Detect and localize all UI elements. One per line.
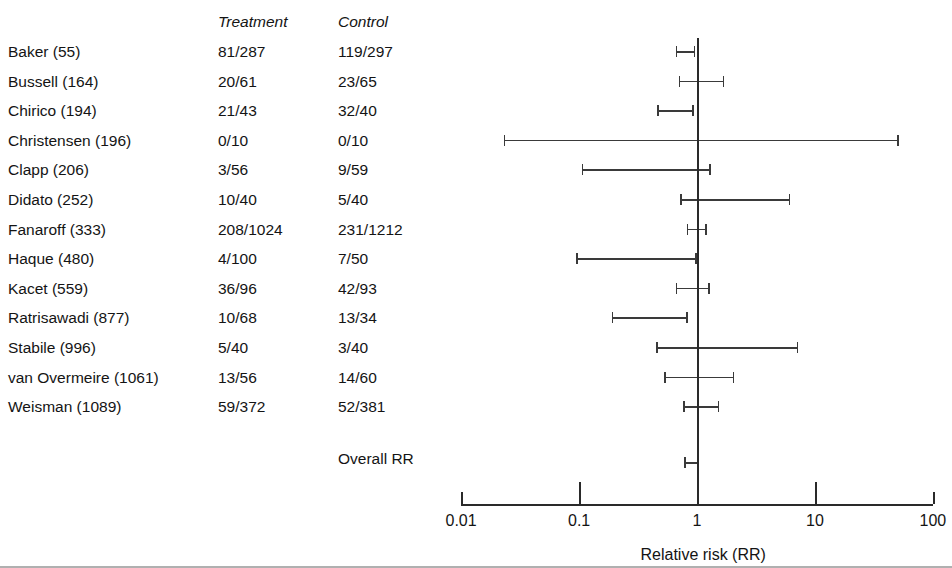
ci-line bbox=[582, 169, 710, 171]
axis-line bbox=[461, 504, 933, 506]
ci-cap-lower bbox=[664, 372, 666, 383]
ci-cap-upper bbox=[686, 312, 688, 323]
null-reference-line bbox=[697, 38, 699, 492]
ci-cap-lower bbox=[656, 342, 658, 353]
ci-line bbox=[676, 51, 694, 53]
ci-line bbox=[656, 347, 797, 349]
ci-cap-lower bbox=[683, 401, 685, 412]
ci-line bbox=[576, 258, 695, 260]
ci-cap-upper bbox=[723, 76, 725, 87]
ci-line bbox=[687, 229, 705, 231]
ci-cap-upper bbox=[797, 342, 799, 353]
ci-cap-lower bbox=[657, 105, 659, 116]
axis-tick bbox=[815, 482, 817, 504]
axis-tick bbox=[697, 482, 699, 504]
axis-tick bbox=[461, 492, 463, 504]
ci-cap-lower bbox=[676, 46, 678, 57]
ci-line bbox=[684, 462, 697, 464]
axis-tick-label: 1 bbox=[693, 512, 702, 530]
ci-cap-lower bbox=[687, 224, 689, 235]
ci-cap-lower bbox=[679, 76, 681, 87]
forest-plot-figure: Treatment Control Baker (55)81/287119/29… bbox=[0, 0, 952, 568]
ci-cap-lower bbox=[582, 164, 584, 175]
axis-tick-label: 10 bbox=[806, 512, 824, 530]
ci-cap-lower bbox=[680, 194, 682, 205]
ci-cap-upper bbox=[705, 224, 707, 235]
ci-cap-lower bbox=[504, 135, 506, 146]
axis-tick bbox=[933, 492, 935, 504]
ci-cap-lower bbox=[576, 253, 578, 264]
axis-tick-label: 0.1 bbox=[568, 512, 590, 530]
ci-cap-lower bbox=[684, 457, 686, 468]
axis-tick-label: 0.01 bbox=[446, 512, 477, 530]
ci-cap-upper bbox=[897, 135, 899, 146]
ci-cap-upper bbox=[694, 46, 696, 57]
ci-cap-upper bbox=[718, 401, 720, 412]
axis-tick bbox=[579, 482, 581, 504]
ci-cap-lower bbox=[676, 283, 678, 294]
ci-line bbox=[612, 317, 686, 319]
ci-line bbox=[657, 110, 692, 112]
x-axis-title: Relative risk (RR) bbox=[641, 546, 766, 564]
ci-line bbox=[504, 140, 898, 142]
ci-cap-upper bbox=[692, 105, 694, 116]
ci-cap-upper bbox=[733, 372, 735, 383]
ci-cap-upper bbox=[709, 164, 711, 175]
axis-tick-label: 100 bbox=[920, 512, 947, 530]
ci-cap-lower bbox=[612, 312, 614, 323]
overall-rr-label: Overall RR bbox=[338, 451, 414, 467]
ci-cap-upper bbox=[789, 194, 791, 205]
ci-line bbox=[683, 406, 718, 408]
plot-area bbox=[0, 0, 952, 568]
ci-line bbox=[679, 81, 723, 83]
ci-line bbox=[676, 288, 708, 290]
ci-cap-upper bbox=[708, 283, 710, 294]
